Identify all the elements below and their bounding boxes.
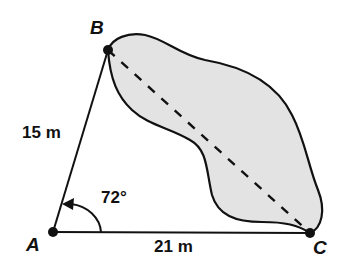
- point-a-dot: [48, 227, 58, 237]
- point-c-label: C: [313, 237, 327, 258]
- point-a-label: A: [25, 234, 40, 255]
- angle-a-label: 72°: [101, 188, 127, 207]
- side-ac: [53, 232, 310, 233]
- angle-arc: [71, 204, 101, 232]
- angle-arrowhead-icon: [62, 198, 74, 210]
- side-ac-length-label: 21 m: [154, 237, 193, 256]
- point-b-label: B: [90, 17, 104, 38]
- side-ab: [53, 50, 108, 232]
- triangle-lake-diagram: B A C 15 m 21 m 72°: [0, 0, 351, 273]
- lake-region: [108, 34, 322, 233]
- point-b-dot: [103, 45, 113, 55]
- side-ab-length-label: 15 m: [22, 123, 61, 142]
